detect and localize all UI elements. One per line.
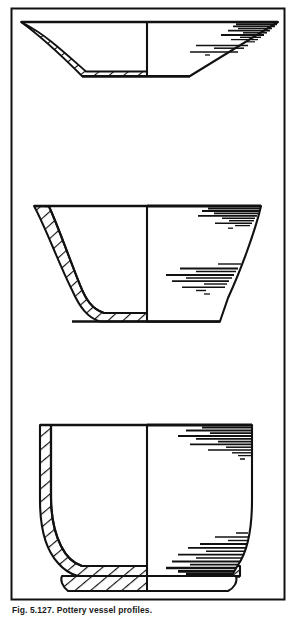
figure-caption-text: Fig. 5.127. Pottery vessel profiles.	[12, 605, 282, 615]
figure-plate: Fig. 5.127. Pottery vessel profiles.	[0, 0, 297, 617]
vessel-3-footring	[61, 576, 147, 591]
figure-caption: Fig. 5.127. Pottery vessel profiles.	[12, 604, 282, 617]
vessel-3-footring-right	[147, 576, 237, 591]
vessel-profile-drawing	[0, 0, 297, 617]
